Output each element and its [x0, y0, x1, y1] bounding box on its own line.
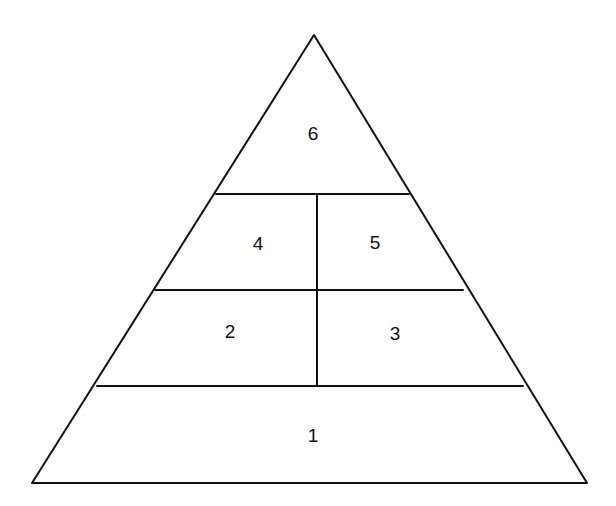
section-label-1: 1 [308, 425, 319, 446]
section-label-3: 3 [390, 323, 401, 344]
section-label-5: 5 [370, 232, 381, 253]
section-label-4: 4 [253, 233, 264, 254]
pyramid-outline [32, 35, 587, 483]
section-label-6: 6 [308, 123, 319, 144]
section-label-2: 2 [225, 321, 236, 342]
pyramid-diagram: 6 4 5 2 3 1 [0, 0, 616, 506]
